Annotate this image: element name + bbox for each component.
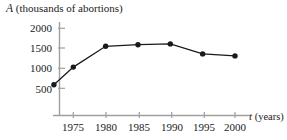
data-point-1985 [135,42,140,47]
chart-figure: A (thousands of abortions) t (years) 200… [0,0,287,140]
chart-plot [0,0,287,140]
data-point-1980 [103,44,108,49]
data-point-1990 [168,41,173,46]
data-point-2000 [232,53,237,58]
data-point-1975 [71,64,76,69]
data-line-series-A [54,44,235,85]
data-markers [51,41,238,87]
data-point-1972 [51,82,56,87]
data-point-1995 [200,51,205,56]
